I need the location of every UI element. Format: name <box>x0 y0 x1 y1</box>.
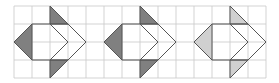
bottom-shaded-triangle <box>140 60 158 78</box>
figure <box>0 0 279 83</box>
top-shaded-triangle <box>230 6 248 24</box>
left-shaded-triangle <box>104 24 122 60</box>
top-shaded-triangle <box>140 6 158 24</box>
top-shaded-triangle <box>50 6 68 24</box>
bottom-shaded-triangle <box>50 60 68 78</box>
bottom-shaded-triangle <box>230 60 248 78</box>
left-shaded-triangle <box>194 24 212 60</box>
left-shaded-triangle <box>14 24 32 60</box>
